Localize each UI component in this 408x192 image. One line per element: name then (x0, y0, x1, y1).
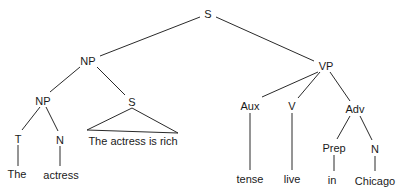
tree-node-actress: actress (43, 170, 78, 181)
tree-node-prep: Prep (322, 143, 345, 154)
tree-node-chicago: Chicago (355, 176, 395, 187)
tree-edge (22, 107, 40, 130)
tree-edge (360, 116, 372, 140)
tree-node-live: live (284, 174, 301, 185)
syntax-tree: SNPVPNPSThe actress is richTNTheactressA… (0, 0, 408, 192)
tree-node-the: The (8, 169, 27, 180)
tree-node-aux: Aux (241, 101, 260, 112)
tree-edge (97, 67, 125, 95)
collapsed-subtree-triangle (87, 108, 178, 133)
tree-node-tense: tense (237, 174, 264, 185)
tree-edge (330, 72, 350, 101)
tree-node-s-sub-text: The actress is rich (88, 136, 177, 147)
tree-edge (216, 17, 314, 61)
tree-node-adv: Adv (346, 104, 365, 115)
tree-node-t: T (15, 134, 22, 145)
tree-node-np-top: NP (80, 56, 95, 67)
tree-node-s-sub: S (128, 97, 135, 108)
tree-node-in: in (328, 175, 337, 186)
tree-node-s-root: S (204, 9, 211, 20)
tree-edge (46, 107, 58, 131)
tree-edge (337, 116, 350, 139)
tree-edge (100, 17, 200, 56)
tree-node-n2: N (371, 144, 379, 155)
tree-node-v: V (288, 101, 295, 112)
tree-node-np-low: NP (35, 96, 50, 107)
tree-node-vp: VP (319, 61, 334, 72)
tree-node-n1: N (56, 135, 64, 146)
tree-edges (0, 0, 408, 192)
tree-edge (50, 67, 80, 92)
